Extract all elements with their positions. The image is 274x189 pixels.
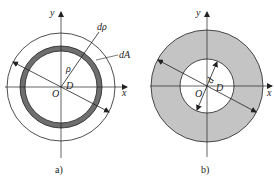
d-rho-label: dρ [97, 21, 107, 32]
y-axis-label: y [195, 7, 201, 18]
outer-diameter-label: D [215, 82, 224, 93]
diagram-canvas: y x O D ρ dρ dA a) y x O D d b) [0, 0, 274, 189]
diameter-label: D [65, 80, 74, 91]
y-axis-label: y [49, 7, 55, 18]
d-area-label: dA [119, 49, 131, 60]
d-rho-leader [85, 32, 99, 52]
origin-label: O [52, 88, 59, 99]
x-axis-label: x [266, 87, 272, 98]
x-axis-label: x [121, 87, 127, 98]
caption-a: a) [55, 164, 63, 176]
figure-b: y x O D d b) [150, 7, 272, 176]
rho-label: ρ [65, 63, 71, 74]
origin-label: O [195, 88, 202, 99]
caption-b: b) [201, 164, 209, 176]
figure-a: y x O D ρ dρ dA a) [5, 7, 131, 176]
